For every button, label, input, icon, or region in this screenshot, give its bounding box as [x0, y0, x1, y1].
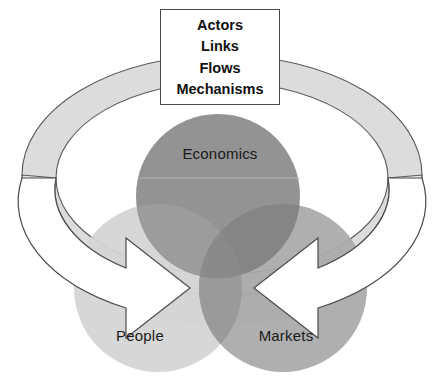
callout-line-links: Links	[201, 36, 239, 57]
venn-label-people: People	[100, 327, 180, 344]
diagram-root: Economics People Markets Actors Links Fl…	[0, 0, 445, 383]
callout-line-flows: Flows	[199, 58, 240, 79]
venn-label-economics: Economics	[170, 145, 270, 162]
callout-line-mechanisms: Mechanisms	[176, 79, 263, 100]
callout-box: Actors Links Flows Mechanisms	[160, 9, 280, 105]
venn-label-markets: Markets	[243, 327, 329, 344]
callout-line-actors: Actors	[197, 15, 243, 36]
